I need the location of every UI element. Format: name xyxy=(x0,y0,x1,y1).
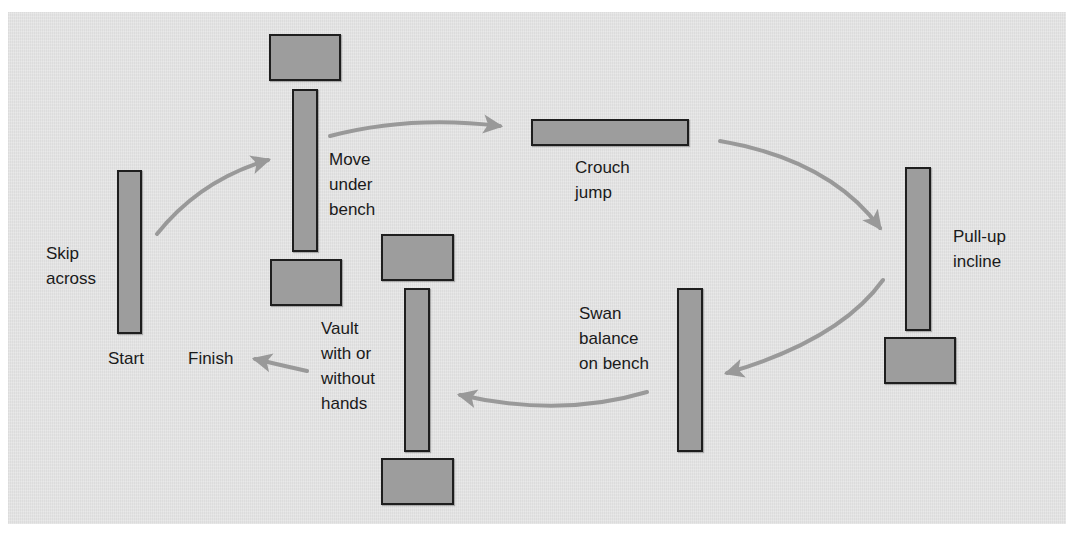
label-start: Start xyxy=(108,346,144,371)
pull-up-incline-box xyxy=(884,337,956,384)
label-skip-across: Skip across xyxy=(46,241,96,291)
vault-bottom-box xyxy=(381,458,454,505)
label-swan-balance: Swan balance on bench xyxy=(579,301,649,376)
move-under-top-box xyxy=(269,34,341,81)
move-under-bottom-box xyxy=(270,259,342,306)
label-pull-up-incline: Pull-up incline xyxy=(953,224,1006,274)
label-vault: Vault with or without hands xyxy=(321,316,375,416)
label-crouch-jump: Crouch jump xyxy=(575,155,630,205)
label-finish: Finish xyxy=(188,346,233,371)
swan-balance-bench xyxy=(677,288,703,452)
crouch-jump-bench xyxy=(531,119,689,146)
move-under-bench xyxy=(292,89,318,252)
label-move-under-bench: Move under bench xyxy=(329,147,375,222)
vault-bench xyxy=(404,288,430,452)
start-bench xyxy=(117,170,142,334)
pull-up-incline-bench xyxy=(905,167,931,331)
vault-top-box xyxy=(381,234,454,281)
